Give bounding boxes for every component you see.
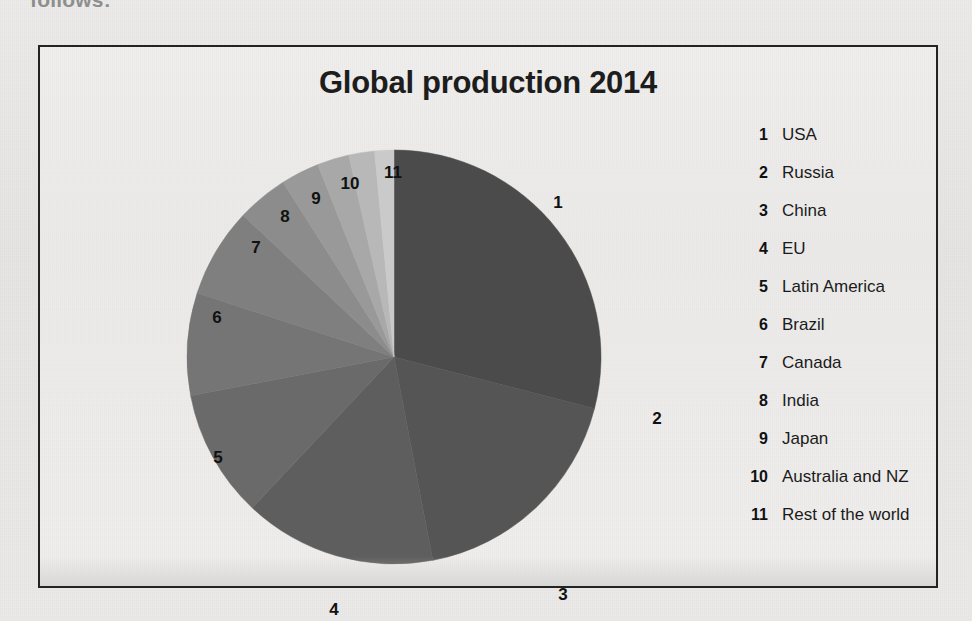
legend-item-label: China: [782, 201, 826, 221]
pie-slice-number: 1: [553, 193, 562, 213]
legend-item: 9Japan: [738, 429, 938, 467]
legend-item: 7Canada: [738, 353, 938, 391]
legend-item: 5Latin America: [738, 277, 938, 315]
legend-item-label: Rest of the world: [782, 505, 910, 525]
pie-chart: 1234567891011: [40, 47, 720, 590]
legend-item-number: 5: [738, 278, 768, 296]
pie-chart-svg: [40, 47, 720, 590]
pie-slice-number: 2: [652, 409, 661, 429]
pie-slice-number: 10: [341, 174, 360, 194]
legend-item-label: USA: [782, 125, 817, 145]
legend-item-label: Japan: [782, 429, 828, 449]
legend-item-label: Australia and NZ: [782, 467, 909, 487]
legend-item-number: 9: [738, 430, 768, 448]
legend-item: 1USA: [738, 125, 938, 163]
pie-slice-number: 6: [212, 308, 221, 328]
legend-item: 2Russia: [738, 163, 938, 201]
legend-item-number: 7: [738, 354, 768, 372]
legend-item-number: 3: [738, 202, 768, 220]
pie-slice-number: 7: [251, 238, 260, 258]
pie-slice-number: 11: [384, 163, 402, 183]
legend-item-number: 4: [738, 240, 768, 258]
legend-item: 8India: [738, 391, 938, 429]
legend-item: 6Brazil: [738, 315, 938, 353]
legend-item: 10Australia and NZ: [738, 467, 938, 505]
chart-frame: Global production 2014 1234567891011 1US…: [38, 45, 938, 588]
pie-slice-number: 9: [311, 189, 320, 209]
pie-slice-number: 5: [213, 448, 222, 468]
pie-slice-number: 4: [329, 600, 338, 620]
legend-item-number: 1: [738, 126, 768, 144]
legend-item-number: 8: [738, 392, 768, 410]
legend-item-label: Brazil: [782, 315, 825, 335]
legend-item-label: EU: [782, 239, 806, 259]
legend-item: 11Rest of the world: [738, 505, 938, 543]
legend-item: 3China: [738, 201, 938, 239]
legend-item-number: 6: [738, 316, 768, 334]
legend-item-number: 10: [738, 468, 768, 486]
legend-item-number: 2: [738, 164, 768, 182]
cutoff-body-text: follows:: [30, 0, 111, 12]
legend-item-label: Latin America: [782, 277, 885, 297]
legend-item-label: Canada: [782, 353, 842, 373]
legend-item-number: 11: [738, 506, 768, 524]
legend-item: 4EU: [738, 239, 938, 277]
legend-item-label: India: [782, 391, 819, 411]
pie-slice-number: 8: [280, 207, 289, 227]
pie-slices-group: [187, 150, 601, 564]
legend-item-label: Russia: [782, 163, 834, 183]
pie-slice-number: 3: [558, 585, 567, 605]
chart-legend: 1USA2Russia3China4EU5Latin America6Brazi…: [738, 125, 938, 543]
